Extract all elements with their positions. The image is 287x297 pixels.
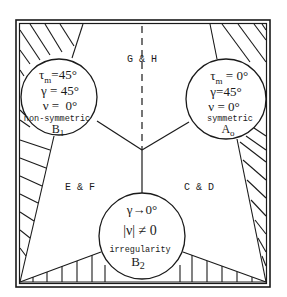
gamma-value: γ = 45° xyxy=(40,83,79,98)
node-a0: τm = 0° γ=45° ν = 0° symmetric Ao xyxy=(186,59,266,139)
hatch-left-side xyxy=(20,110,54,282)
tau-value: = 0° xyxy=(223,68,249,83)
nu-value: ν = 0° xyxy=(208,99,239,114)
node-name: A xyxy=(221,122,230,136)
nu-condition: |ν| ≠ 0 xyxy=(123,223,157,238)
node-subscript: 1 xyxy=(60,128,65,138)
node-b1: τm=45° γ = 45° ν = 0° non-symmetric B1 xyxy=(21,59,97,138)
tau-value: =45° xyxy=(51,67,77,82)
nu-value: ν = 0° xyxy=(43,98,78,113)
node-caption: irregularity xyxy=(109,245,170,255)
hatch-top-right xyxy=(210,24,266,62)
node-name: B xyxy=(131,254,140,269)
gamma-limit: γ→0° xyxy=(126,202,157,217)
region-label-right: C & D xyxy=(184,182,214,193)
region-label-left: E & F xyxy=(65,182,95,193)
transition-lines xyxy=(97,26,189,193)
node-b2: γ→0° |ν| ≠ 0 irregularity B2 xyxy=(99,193,185,279)
phase-diagram: G & H E & F C & D τm=45° γ = 45° ν = 0° … xyxy=(0,0,287,297)
node-name: B xyxy=(52,122,60,136)
node-subscript: o xyxy=(230,128,235,138)
node-subscript: 2 xyxy=(140,260,145,271)
gamma-value: γ=45° xyxy=(209,84,241,99)
hatch-right-side xyxy=(237,128,266,282)
region-label-top: G & H xyxy=(127,54,157,65)
